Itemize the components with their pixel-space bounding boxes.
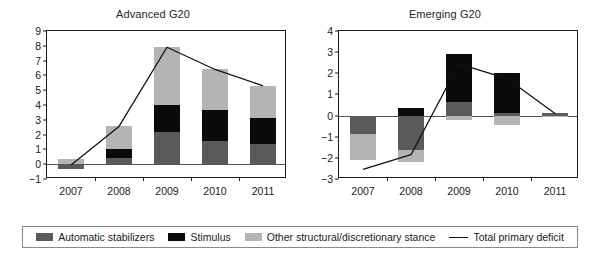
chart-legend: Automatic stabilizersStimulusOther struc… — [22, 226, 578, 248]
bar-segment-stimulus-2010 — [494, 73, 520, 113]
y-axis-tick-mark-advanced-g20 — [43, 45, 47, 46]
legend-label-stimulus: Stimulus — [190, 231, 230, 243]
legend-color-swatch-stimulus — [168, 233, 185, 241]
bar-segment-other-structural-2008 — [106, 126, 132, 149]
y-axis-tick-mark-advanced-g20 — [43, 31, 47, 32]
bar-segment-other-structural-2010 — [494, 116, 520, 126]
bar-segment-stimulus-2011 — [250, 118, 276, 144]
bar-segment-automatic-stabilizers-2008 — [398, 116, 424, 151]
bar-segment-other-structural-2007 — [58, 159, 84, 164]
y-axis-tick-mark-emerging-g20 — [335, 136, 339, 137]
plot-inner-advanced-g20 — [47, 31, 285, 177]
x-axis-tick-label-emerging-g20: 2009 — [447, 185, 470, 197]
x-axis-tick-mark-emerging-g20 — [531, 177, 532, 181]
bar-segment-stimulus-2009 — [154, 105, 180, 132]
y-axis-tick-mark-advanced-g20 — [43, 119, 47, 120]
bar-segment-other-structural-2010 — [202, 69, 228, 110]
x-axis-tick-mark-emerging-g20 — [387, 177, 388, 181]
bar-segment-other-structural-2009 — [446, 116, 472, 120]
bar-segment-automatic-stabilizers-2009 — [446, 102, 472, 116]
bar-segment-automatic-stabilizers-2008 — [106, 158, 132, 164]
y-axis-tick-mark-advanced-g20 — [43, 149, 47, 150]
x-axis-tick-label-advanced-g20: 2011 — [252, 185, 275, 197]
y-axis-tick-mark-advanced-g20 — [43, 105, 47, 106]
x-axis-tick-label-emerging-g20: 2010 — [495, 185, 518, 197]
legend-line-swatch-total_primary_deficit — [449, 233, 468, 241]
plot-area-emerging-g20: −3−2−10123420072008200920102011 — [338, 30, 578, 178]
y-axis-tick-mark-advanced-g20 — [43, 90, 47, 91]
bar-segment-automatic-stabilizers-2009 — [154, 132, 180, 165]
legend-label-total_primary_deficit: Total primary deficit — [473, 231, 563, 243]
bar-segment-stimulus-2008 — [398, 108, 424, 115]
chart-panel-emerging-g20: Emerging G20 −3−2−1012342007200820092010… — [300, 0, 590, 215]
x-axis-tick-label-advanced-g20: 2009 — [155, 185, 178, 197]
chart-panel-advanced-g20: Advanced G20 −10123456789200720082009201… — [8, 0, 298, 215]
x-axis-tick-mark-advanced-g20 — [239, 177, 240, 181]
x-axis-tick-mark-emerging-g20 — [435, 177, 436, 181]
bar-segment-stimulus-2009 — [446, 54, 472, 102]
y-axis-tick-mark-emerging-g20 — [335, 73, 339, 74]
plot-inner-emerging-g20 — [339, 31, 577, 177]
x-axis-tick-mark-advanced-g20 — [191, 177, 192, 181]
y-axis-tick-mark-advanced-g20 — [43, 75, 47, 76]
x-axis-tick-label-emerging-g20: 2011 — [544, 185, 567, 197]
legend-item-total_primary_deficit: Total primary deficit — [449, 231, 563, 243]
y-axis-tick-mark-emerging-g20 — [335, 157, 339, 158]
bar-segment-other-structural-2008 — [398, 150, 424, 162]
charts-root: Advanced G20 −10123456789200720082009201… — [0, 0, 597, 259]
bar-segment-automatic-stabilizers-2007 — [350, 116, 376, 134]
y-axis-tick-mark-emerging-g20 — [335, 52, 339, 53]
y-axis-tick-mark-emerging-g20 — [335, 179, 339, 180]
bar-segment-automatic-stabilizers-2011 — [250, 144, 276, 164]
x-axis-tick-label-emerging-g20: 2007 — [351, 185, 374, 197]
y-axis-tick-mark-advanced-g20 — [43, 60, 47, 61]
y-axis-tick-mark-advanced-g20 — [43, 164, 47, 165]
bar-segment-other-structural-2009 — [154, 47, 180, 105]
x-axis-tick-mark-emerging-g20 — [483, 177, 484, 181]
x-axis-tick-label-advanced-g20: 2008 — [107, 185, 130, 197]
bar-segment-stimulus-2008 — [106, 149, 132, 158]
legend-item-stimulus: Stimulus — [168, 231, 230, 243]
legend-label-other_structural: Other structural/discretionary stance — [267, 231, 436, 243]
legend-color-swatch-automatic_stabilizers — [36, 233, 53, 241]
plot-area-advanced-g20: −1012345678920072008200920102011 — [46, 30, 286, 178]
bar-segment-automatic-stabilizers-2007 — [58, 164, 84, 168]
bar-segment-other-structural-2011 — [542, 116, 568, 118]
y-axis-tick-mark-emerging-g20 — [335, 94, 339, 95]
legend-label-automatic_stabilizers: Automatic stabilizers — [58, 231, 154, 243]
chart-title-emerging-g20: Emerging G20 — [300, 8, 590, 20]
chart-title-advanced-g20: Advanced G20 — [8, 8, 298, 20]
bar-segment-automatic-stabilizers-2010 — [202, 141, 228, 165]
x-axis-tick-mark-advanced-g20 — [95, 177, 96, 181]
x-axis-tick-label-emerging-g20: 2008 — [399, 185, 422, 197]
x-axis-tick-label-advanced-g20: 2007 — [59, 185, 82, 197]
bar-segment-other-structural-2011 — [250, 86, 276, 119]
y-axis-tick-mark-emerging-g20 — [335, 115, 339, 116]
legend-item-automatic_stabilizers: Automatic stabilizers — [36, 231, 154, 243]
bar-segment-stimulus-2010 — [202, 110, 228, 140]
y-axis-tick-mark-emerging-g20 — [335, 31, 339, 32]
legend-item-other_structural: Other structural/discretionary stance — [245, 231, 436, 243]
legend-color-swatch-other_structural — [245, 233, 262, 241]
y-axis-tick-mark-advanced-g20 — [43, 134, 47, 135]
y-axis-tick-mark-advanced-g20 — [43, 179, 47, 180]
x-axis-tick-label-advanced-g20: 2010 — [203, 185, 226, 197]
bar-segment-other-structural-2007 — [350, 134, 376, 160]
x-axis-tick-mark-advanced-g20 — [143, 177, 144, 181]
